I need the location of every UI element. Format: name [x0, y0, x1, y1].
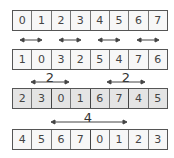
cell: 0: [91, 130, 110, 149]
row-swap-4: 4 5 6 7 0 1 2 3: [12, 129, 168, 150]
cell: 4: [129, 89, 148, 108]
cell: 0: [52, 89, 71, 108]
cell: 2: [129, 130, 148, 149]
cell: 1: [32, 11, 51, 30]
cell: 6: [52, 130, 71, 149]
cell: 5: [149, 89, 167, 108]
cell: 5: [32, 130, 51, 149]
double-arrow-icon: [20, 36, 174, 44]
cell: 7: [110, 89, 129, 108]
cell: 4: [110, 50, 129, 69]
cell: 2: [71, 50, 90, 69]
cell: 1: [13, 50, 32, 69]
cell: 4: [13, 130, 32, 149]
cell: 1: [71, 89, 90, 108]
double-arrow-icon: [50, 118, 130, 126]
double-arrow-icon: [30, 78, 170, 86]
cell: 7: [149, 11, 167, 30]
cell: 0: [32, 50, 51, 69]
cell: 7: [71, 130, 90, 149]
cell: 1: [110, 130, 129, 149]
cell: 4: [91, 11, 110, 30]
cell: 3: [52, 50, 71, 69]
cell: 3: [32, 89, 51, 108]
cell: 7: [129, 50, 148, 69]
row-swap-1: 1 0 3 2 5 4 7 6: [12, 49, 168, 70]
cell: 3: [71, 11, 90, 30]
row-original: 0 1 2 3 4 5 6 7: [12, 10, 168, 31]
cell: 6: [91, 89, 110, 108]
cell: 3: [149, 130, 167, 149]
cell: 5: [110, 11, 129, 30]
cell: 6: [149, 50, 167, 69]
cell: 2: [13, 89, 32, 108]
cell: 0: [13, 11, 32, 30]
row-swap-2: 2 3 0 1 6 7 4 5: [12, 88, 168, 109]
cell: 2: [52, 11, 71, 30]
butterfly-swap-diagram: 0 1 2 3 4 5 6 7 1 0 3 2 5 4 7 6 2 2: [0, 0, 174, 158]
cell: 6: [129, 11, 148, 30]
cell: 5: [91, 50, 110, 69]
